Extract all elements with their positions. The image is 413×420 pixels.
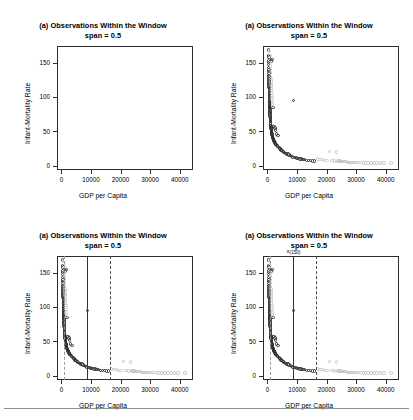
y-axis-tick-label: 100: [30, 303, 50, 310]
panel-title: (a) Observations Within the Window span …: [206, 21, 412, 40]
y-axis-tick: [259, 376, 263, 377]
x-axis-tick: [150, 170, 151, 174]
y-axis-tick: [53, 341, 57, 342]
y-axis-tick: [259, 63, 263, 64]
window-boundary-line: [87, 256, 88, 380]
x-axis-title: GDP per Capita: [206, 192, 412, 199]
panel-bottom-left: (a) Observations Within the Window span …: [0, 210, 206, 420]
scatter-point: [276, 134, 279, 137]
y-axis-tick-label: 100: [30, 93, 50, 100]
window-boundary-line: [316, 256, 317, 380]
x-axis-tick-label: 40000: [160, 176, 200, 183]
x-axis-tick: [386, 380, 387, 384]
panel-title-line1: (a) Observations Within the Window: [0, 231, 206, 241]
window-boundary-line: [64, 256, 65, 380]
x-axis-tick-label: 40000: [160, 386, 200, 393]
x-axis-tick: [150, 380, 151, 384]
x-axis-tick: [61, 380, 62, 384]
panel-title-line2: span = 0.5: [206, 241, 412, 251]
window-boundary-line: [110, 256, 111, 380]
y-axis-tick-label: 100: [236, 93, 256, 100]
x-axis-tick-label: 40000: [366, 176, 406, 183]
y-axis-tick-label: 0: [236, 162, 256, 169]
y-axis-title: Infant-Mortality Rate: [230, 293, 237, 354]
x-axis-tick: [267, 380, 268, 384]
y-axis-tick-label: 150: [30, 59, 50, 66]
panel-bottom-right: (a) Observations Within the Window span …: [206, 210, 412, 420]
panel-title-line1: (a) Observations Within the Window: [206, 21, 412, 31]
y-axis-tick: [53, 97, 57, 98]
y-axis-tick: [53, 376, 57, 377]
scatter-point: [325, 159, 328, 162]
x-axis-tick: [91, 170, 92, 174]
scatter-point: [382, 371, 385, 374]
y-axis-tick-label: 50: [30, 128, 50, 135]
x-axis-tick: [91, 380, 92, 384]
y-axis-tick-label: 50: [30, 338, 50, 345]
panel-top-left: (a) Observations Within the Window span …: [0, 0, 206, 210]
x-axis-tick: [121, 380, 122, 384]
scatter-point: [382, 161, 385, 164]
y-axis-tick-label: 150: [236, 59, 256, 66]
plot-frame: [57, 46, 193, 170]
scatter-point: [268, 54, 271, 57]
x-axis-tick: [180, 170, 181, 174]
panel-title-line2: span = 0.5: [0, 31, 206, 41]
window-boundary-line: [293, 256, 294, 380]
x-axis-tick: [297, 170, 298, 174]
y-axis-title: Infant-Mortality Rate: [24, 83, 31, 144]
scatter-point: [183, 371, 186, 374]
y-axis-tick: [259, 97, 263, 98]
x-axis-tick: [327, 170, 328, 174]
y-axis-tick-label: 150: [30, 269, 50, 276]
y-axis-tick-label: 100: [236, 303, 256, 310]
y-axis-tick: [53, 131, 57, 132]
y-axis-tick: [259, 166, 263, 167]
x-axis-tick: [386, 170, 387, 174]
y-axis-tick: [259, 307, 263, 308]
x-axis-tick: [267, 170, 268, 174]
y-axis-tick-label: 0: [236, 372, 256, 379]
scatter-point: [70, 344, 73, 347]
order-statistic-annotation: x(150): [287, 247, 301, 254]
y-axis-tick: [53, 307, 57, 308]
y-axis-tick: [259, 131, 263, 132]
y-axis-tick: [53, 63, 57, 64]
panel-title: (a) Observations Within the Window span …: [0, 231, 206, 250]
panel-title-line2: span = 0.5: [0, 241, 206, 251]
panel-title: (a) Observations Within the Window span …: [0, 21, 206, 40]
window-boundary-line: [270, 256, 271, 380]
scatter-point: [119, 369, 122, 372]
y-axis-title: Infant-Mortality Rate: [230, 83, 237, 144]
x-axis-tick: [61, 170, 62, 174]
x-axis-tick-label: 40000: [366, 386, 406, 393]
panel-title: (a) Observations Within the Window span …: [206, 231, 412, 250]
panel-top-right: (a) Observations Within the Window span …: [206, 0, 412, 210]
scatter-point: [276, 344, 279, 347]
bottom-separator-rule: [4, 408, 409, 409]
y-axis-tick-label: 0: [30, 162, 50, 169]
x-axis-tick: [297, 380, 298, 384]
x-axis-tick: [327, 380, 328, 384]
scatter-point: [176, 371, 179, 374]
y-axis-tick-label: 50: [236, 128, 256, 135]
y-axis-tick: [53, 273, 57, 274]
y-axis-tick-label: 150: [236, 269, 256, 276]
y-axis-tick-label: 0: [30, 372, 50, 379]
y-axis-title: Infant-Mortality Rate: [24, 293, 31, 354]
y-axis-tick: [259, 341, 263, 342]
x-axis-title: GDP per Capita: [0, 192, 206, 199]
y-axis-tick: [53, 166, 57, 167]
panel-title-line2: span = 0.5: [206, 31, 412, 41]
x-axis-tick: [356, 380, 357, 384]
scatter-point: [389, 161, 392, 164]
panel-title-line1: (a) Observations Within the Window: [0, 21, 206, 31]
panel-title-line1: (a) Observations Within the Window: [206, 231, 412, 241]
x-axis-tick: [356, 170, 357, 174]
scatter-point: [389, 371, 392, 374]
figure-grid: (a) Observations Within the Window span …: [0, 0, 413, 420]
scatter-point: [325, 369, 328, 372]
x-axis-tick: [121, 170, 122, 174]
y-axis-tick-label: 50: [236, 338, 256, 345]
y-axis-tick: [259, 273, 263, 274]
